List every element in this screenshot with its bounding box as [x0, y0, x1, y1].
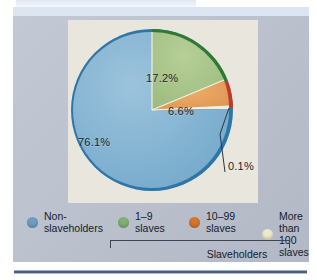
slaveholders-group-label-text: Slaveholders — [207, 248, 268, 260]
pie-svg — [68, 22, 258, 204]
cropped-caption-remnant — [16, 0, 196, 7]
slice-label-more-than-100-slaves: 0.1% — [228, 160, 254, 172]
legend-item-1-9-slaves: 1–9 slaves — [118, 210, 165, 234]
legend-label-non-slaveholders: Non- slaveholders — [44, 210, 103, 234]
top-band — [13, 7, 309, 16]
slaveholders-bracket — [110, 240, 290, 248]
legend-swatch-icon-10-99-slaves — [189, 217, 200, 228]
pie-chart-figure: 17.2% 6.6% 76.1% 0.1% Non- slaveholders … — [0, 0, 317, 280]
slice-label-1-9-slaves: 17.2% — [146, 72, 178, 84]
slice-label-non-slaveholders: 76.1% — [78, 136, 110, 148]
legend: Non- slaveholders 1–9 slaves 10–99 slave… — [13, 208, 309, 240]
slice-label-10-99-slaves: 6.6% — [168, 105, 194, 117]
legend-label-1-9-slaves: 1–9 slaves — [135, 210, 165, 234]
legend-item-10-99-slaves: 10–99 slaves — [189, 210, 236, 234]
legend-label-10-99-slaves: 10–99 slaves — [206, 210, 236, 234]
divider-rule-bottom — [14, 273, 307, 274]
legend-item-non-slaveholders: Non- slaveholders — [27, 210, 103, 234]
legend-swatch-icon-more-than-100-slaves — [262, 229, 273, 240]
legend-swatch-icon-non-slaveholders — [27, 217, 38, 228]
pie-graphic — [68, 22, 258, 204]
legend-swatch-icon-1-9-slaves — [118, 217, 129, 228]
slaveholders-group-label: Slaveholders — [13, 248, 309, 260]
